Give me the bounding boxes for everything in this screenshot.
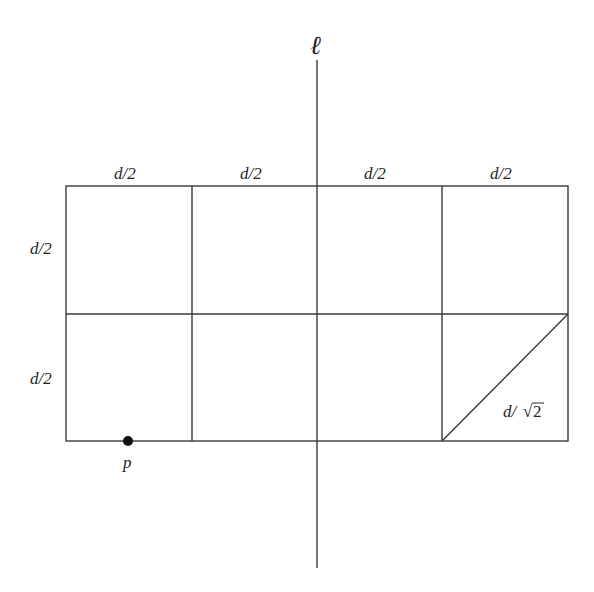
top-label-3: d/2 bbox=[364, 164, 386, 183]
diagonal-label: d/ √ 2 bbox=[503, 402, 544, 421]
cell-diagonal bbox=[442, 314, 568, 441]
point-p-label: p bbox=[122, 453, 132, 472]
point-p bbox=[123, 436, 133, 446]
diagonal-label-radicand: 2 bbox=[533, 402, 542, 421]
line-ell-label: ℓ bbox=[310, 30, 321, 60]
grid-diagram: ℓ d/ √ 2 d/2 d/2 d/2 d/2 d/2 d/2 p bbox=[0, 0, 594, 592]
diagonal-label-prefix: d/ bbox=[503, 402, 519, 421]
side-label-1: d/2 bbox=[30, 239, 52, 258]
top-label-2: d/2 bbox=[240, 164, 262, 183]
top-label-1: d/2 bbox=[114, 164, 136, 183]
side-label-2: d/2 bbox=[30, 369, 52, 388]
sqrt-symbol: √ bbox=[523, 402, 533, 421]
top-label-4: d/2 bbox=[490, 164, 512, 183]
